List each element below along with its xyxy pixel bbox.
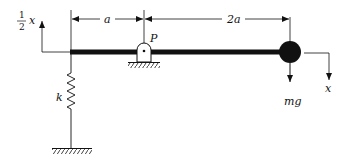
right-displacement-arrow: [304, 53, 329, 80]
left-displacement-arrow: [42, 21, 70, 52]
pivot-label: P: [149, 32, 158, 45]
dim-label-a: a: [104, 13, 111, 26]
fraction-numerator: 1: [19, 10, 25, 20]
pivot-ground-hatch: [128, 63, 160, 68]
pivot-support: [128, 43, 160, 68]
spring: [52, 54, 92, 154]
left-displacement-var: x: [29, 14, 36, 27]
fraction-denominator: 2: [19, 22, 25, 32]
spring-ground-hatch: [52, 149, 92, 154]
weight-label: mg: [284, 95, 301, 108]
rigid-beam: [70, 50, 285, 55]
beam-diagram: a 2a 1 2 x P k mg x: [0, 0, 348, 166]
point-mass: [279, 41, 301, 63]
right-displacement-label: x: [325, 82, 332, 95]
pivot-pin: [143, 50, 146, 53]
spring-label: k: [56, 91, 63, 104]
dim-label-2a: 2a: [226, 13, 241, 26]
